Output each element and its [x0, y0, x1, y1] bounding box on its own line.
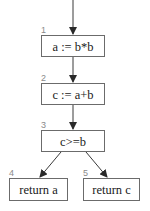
node-5-number: 5 — [83, 168, 88, 178]
node-5: 5 return c — [83, 168, 140, 201]
node-1-text: a := b*b — [52, 40, 93, 54]
node-2-text: c := a+b — [52, 88, 93, 102]
node-4: 4 return a — [9, 168, 68, 201]
node-3-text: c>=b — [60, 135, 86, 149]
node-3-number: 3 — [41, 120, 46, 130]
node-2-number: 2 — [41, 73, 46, 83]
control-flow-graph: 1 a := b*b 2 c := a+b 3 c>=b 4 return a … — [0, 0, 150, 211]
edge-3-4 — [40, 152, 61, 177]
node-4-text: return a — [19, 183, 58, 197]
node-1-number: 1 — [41, 25, 46, 35]
node-5-text: return c — [92, 183, 131, 197]
node-4-number: 4 — [9, 168, 14, 178]
edge-3-5 — [86, 152, 107, 177]
